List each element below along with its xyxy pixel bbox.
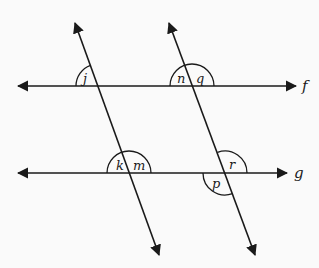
angle-r-label: r	[229, 157, 236, 172]
line-g-label: g	[294, 164, 304, 182]
angle-q-label: q	[196, 71, 204, 86]
angle-m-label: m	[133, 158, 145, 173]
angle-j-label: j	[80, 71, 87, 86]
angle-n-label: n	[177, 71, 185, 86]
left-transversal	[75, 23, 159, 255]
right-transversal	[169, 23, 255, 255]
geometry-diagram: f g j n q k m r p	[0, 0, 319, 268]
line-f-label: f	[301, 77, 310, 95]
angle-p-label: p	[212, 176, 221, 191]
diagram-canvas: f g j n q k m r p	[0, 0, 319, 268]
angle-k-label: k	[116, 158, 124, 173]
